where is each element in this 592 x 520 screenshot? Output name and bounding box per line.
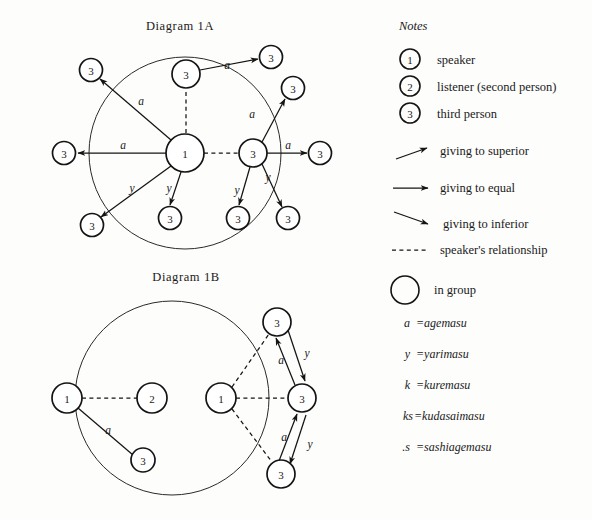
node-label: 3 xyxy=(278,469,284,481)
edge-label-a-topright: a xyxy=(224,59,230,71)
node-label: 3 xyxy=(140,455,146,467)
node-a-out-lowleft[interactable]: 3 xyxy=(81,214,104,237)
node-label: 3 xyxy=(274,317,280,329)
legend-label: giving to inferior xyxy=(443,217,529,231)
legend-symbol: 1 xyxy=(407,54,413,66)
legend-label: third person xyxy=(437,107,498,121)
circle-outline-icon xyxy=(391,276,419,304)
notes-legend: Notes 1 speaker 2 listener (second perso… xyxy=(391,19,556,454)
node-b-listener[interactable]: 2 xyxy=(137,383,167,413)
legend-label: giving to superior xyxy=(440,144,530,158)
node-b-third-top[interactable]: 3 xyxy=(263,308,291,336)
edge-label-y-lowleft: y xyxy=(128,182,135,195)
edge-b-speakerin-top xyxy=(232,334,269,387)
node-a-out-left[interactable]: 3 xyxy=(53,142,76,165)
edge-label-y-bottom: y xyxy=(165,182,172,195)
edge-speaker-to-lowleft xyxy=(101,166,171,217)
node-label: 3 xyxy=(183,69,189,81)
node-label: 3 xyxy=(235,213,241,225)
legend-item-giving-inferior: giving to inferior xyxy=(394,212,529,231)
arrow-down-right-icon xyxy=(394,212,428,224)
legend-label: in group xyxy=(434,283,476,297)
abbr-key: a xyxy=(404,316,410,330)
abbr-value: =kudasaimasu xyxy=(414,409,485,423)
legend-item-giving-equal: giving to equal xyxy=(393,181,516,195)
abbr-key: k xyxy=(405,378,411,392)
node-label: 3 xyxy=(317,148,323,160)
legend-item-speaker: 1 speaker xyxy=(400,49,476,69)
node-label: 3 xyxy=(290,83,296,95)
abbr-value: =agemasu xyxy=(416,316,467,330)
node-label: 3 xyxy=(61,148,67,160)
node-label: 1 xyxy=(218,393,224,405)
node-b-third-mid[interactable]: 3 xyxy=(288,384,316,412)
legend-label: speaker's relationship xyxy=(440,243,547,257)
legend-label: listener (second person) xyxy=(437,80,556,94)
diagram-1b: a a y a y 1 2 3 1 3 xyxy=(52,301,316,495)
abbr-value: =kuremasu xyxy=(416,378,470,392)
node-a-speaker[interactable]: 1 xyxy=(166,134,204,172)
legend-item-third-person: 3 third person xyxy=(400,103,498,123)
node-a-in-bottom[interactable]: 3 xyxy=(159,207,182,230)
node-label: 2 xyxy=(149,393,155,405)
node-a-out-upleft[interactable]: 3 xyxy=(80,59,103,82)
edge-label-b-a-bot: a xyxy=(281,431,287,443)
node-label: 3 xyxy=(285,213,291,225)
node-label: 1 xyxy=(64,393,70,405)
node-label: 1 xyxy=(182,148,188,160)
abbr-key: y xyxy=(404,347,411,361)
legend-abbr-yarimasu: y =yarimasu xyxy=(404,347,469,361)
edge-label-y-outerbottomright: y xyxy=(264,171,271,184)
edge-label-b-y-bot: y xyxy=(306,438,313,451)
legend-abbr-agemasu: a =agemasu xyxy=(404,316,467,330)
diagram-b-title: Diagram 1B xyxy=(152,270,219,284)
diagram-1a: a a y y a a a y y 1 3 3 3 xyxy=(53,46,332,250)
node-label: 3 xyxy=(88,65,94,77)
edge-speaker-to-upleft xyxy=(100,79,171,140)
arrow-up-right-icon xyxy=(396,148,427,159)
diagram-a-title: Diagram 1A xyxy=(146,19,214,33)
node-a-in-bottom-right[interactable]: 3 xyxy=(227,207,250,230)
legend-item-speakers-relationship: speaker's relationship xyxy=(392,243,547,257)
figure-page: Diagram 1A Diagram 1B a a y y a xyxy=(0,0,592,520)
legend-symbol: 2 xyxy=(407,81,413,93)
edge-label-b-a-lower: a xyxy=(105,424,111,436)
node-b-third-lower[interactable]: 3 xyxy=(131,448,155,472)
legend-abbr-kuremasu: k =kuremasu xyxy=(405,378,471,392)
node-a-out-bottom-right[interactable]: 3 xyxy=(277,207,300,230)
edge-b-mid-to-bot-y xyxy=(290,415,306,464)
abbr-key: .s xyxy=(402,440,410,454)
node-a-inner-top[interactable]: 3 xyxy=(172,60,200,88)
node-label: 3 xyxy=(268,52,274,64)
legend-abbr-kudasaimasu: ks =kudasaimasu xyxy=(403,409,485,423)
legend-item-in-group: in group xyxy=(391,276,476,304)
abbr-value: =sashiagemasu xyxy=(416,440,491,454)
edge-hub-to-rightupper xyxy=(262,99,285,142)
edge-label-a-rightupper: a xyxy=(249,108,255,120)
node-label: 3 xyxy=(250,148,256,160)
edge-label-b-a-top: a xyxy=(278,354,284,366)
abbr-value: =yarimasu xyxy=(416,347,469,361)
edge-label-a-right: a xyxy=(285,139,291,151)
node-b-speaker-out[interactable]: 1 xyxy=(52,383,82,413)
edge-label-a-upleft: a xyxy=(138,95,144,107)
node-a-out-topright[interactable]: 3 xyxy=(260,46,283,69)
figure-canvas: Diagram 1A Diagram 1B a a y y a xyxy=(0,0,592,520)
node-a-right-hub[interactable]: 3 xyxy=(239,139,267,167)
node-b-third-bot[interactable]: 3 xyxy=(267,460,295,488)
legend-item-listener: 2 listener (second person) xyxy=(400,76,556,96)
abbr-key: ks xyxy=(403,409,413,423)
notes-heading: Notes xyxy=(398,19,428,33)
node-b-speaker-in[interactable]: 1 xyxy=(206,383,236,413)
legend-symbol: 3 xyxy=(407,108,413,120)
edge-label-y-innerbottomright: y xyxy=(233,184,240,197)
node-a-out-right[interactable]: 3 xyxy=(309,142,332,165)
legend-label: speaker xyxy=(437,53,476,67)
node-label: 3 xyxy=(89,220,95,232)
edge-b-speakerin-bot xyxy=(232,409,272,462)
legend-label: giving to equal xyxy=(440,181,516,195)
node-a-out-right-upper[interactable]: 3 xyxy=(282,77,305,100)
edge-label-a-left: a xyxy=(120,139,126,151)
edge-hub-to-bottomright-inner xyxy=(239,167,250,205)
legend-item-giving-superior: giving to superior xyxy=(396,144,530,159)
